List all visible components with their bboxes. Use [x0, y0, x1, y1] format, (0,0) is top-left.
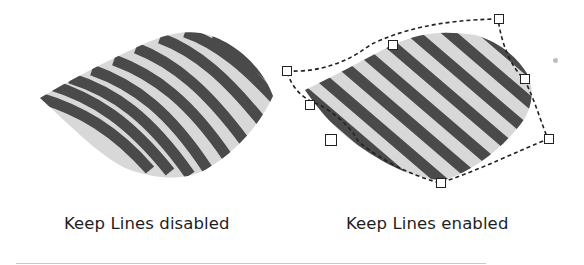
right-panel-keep-lines-enabled — [270, 0, 584, 210]
bottom-divider — [16, 263, 486, 264]
left-panel-keep-lines-disabled — [0, 0, 292, 210]
warped-stripes-shape — [0, 0, 292, 210]
envelope-node-bottom-left[interactable] — [325, 134, 337, 146]
envelope-node-right[interactable] — [544, 134, 554, 144]
envelope-node-bottom[interactable] — [436, 178, 446, 188]
envelope-node-top-left[interactable] — [388, 40, 398, 50]
caption-keep-lines-enabled: Keep Lines enabled — [346, 214, 508, 233]
stray-dot — [553, 58, 558, 63]
envelope-stripes-shape — [270, 0, 584, 210]
envelope-node-right-upper[interactable] — [520, 74, 530, 84]
envelope-node-top[interactable] — [494, 14, 504, 24]
envelope-node-left[interactable] — [282, 66, 292, 76]
envelope-node-left-lower[interactable] — [305, 100, 315, 110]
caption-keep-lines-disabled: Keep Lines disabled — [64, 214, 230, 233]
